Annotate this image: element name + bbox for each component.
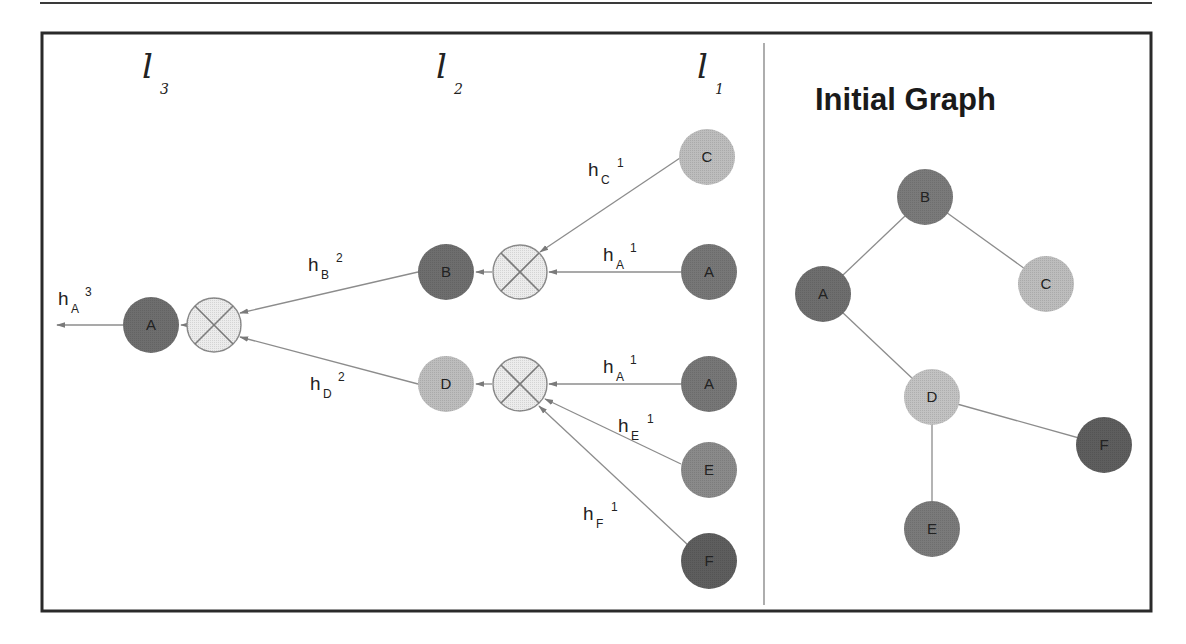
svg-text:h: h — [603, 356, 614, 377]
tree-node-A-layer1-top: A — [681, 244, 737, 300]
svg-text:1: 1 — [647, 412, 654, 426]
edge-hC1 — [540, 158, 680, 252]
tree-node-B-layer2: B — [418, 244, 474, 300]
tree-node-A-layer3: A — [123, 297, 179, 353]
svg-text:F: F — [1099, 436, 1108, 453]
svg-text:D: D — [323, 387, 332, 401]
graph-node-A: A — [795, 266, 851, 322]
svg-text:A: A — [616, 258, 624, 272]
svg-text:A: A — [704, 263, 714, 280]
svg-text:D: D — [927, 388, 938, 405]
aggregator-icon — [187, 298, 241, 352]
graph-node-D: D — [904, 369, 960, 425]
svg-text:1: 1 — [630, 241, 637, 255]
graph-node-B: B — [897, 169, 953, 225]
svg-text:E: E — [927, 520, 937, 537]
svg-text:E: E — [631, 429, 639, 443]
edge-label-hA3: h A 3 — [58, 285, 92, 316]
graph-node-E: E — [904, 501, 960, 557]
tree-node-D-layer2: D — [418, 356, 474, 412]
svg-text:F: F — [596, 517, 603, 531]
svg-text:1: 1 — [611, 500, 618, 514]
svg-text:l: l — [436, 46, 447, 86]
edge-label-hE1: h E 1 — [618, 412, 654, 443]
svg-text:h: h — [588, 159, 599, 180]
layer-label-l1: l 1 — [697, 46, 724, 97]
edge-hD2 — [240, 337, 418, 384]
aggregator-icon — [493, 357, 547, 411]
svg-text:C: C — [702, 148, 713, 165]
svg-text:B: B — [321, 268, 329, 282]
svg-text:1: 1 — [617, 156, 624, 170]
svg-text:h: h — [583, 503, 594, 524]
svg-text:C: C — [1041, 275, 1052, 292]
tree-node-F-layer1: F — [681, 533, 737, 589]
edge-label-hA1-bottom: h A 1 — [603, 353, 637, 384]
svg-text:A: A — [616, 370, 624, 384]
edge-label-hF1: h F 1 — [583, 500, 618, 531]
svg-text:E: E — [704, 461, 714, 478]
edge-label-hD2: h D 2 — [310, 370, 345, 401]
graph-node-F: F — [1076, 417, 1132, 473]
graph-edges — [823, 197, 1104, 529]
layer-label-l3: l 3 — [142, 46, 169, 97]
tree-node-C-layer1: C — [679, 129, 735, 185]
svg-text:2: 2 — [336, 251, 343, 265]
svg-text:D: D — [441, 375, 452, 392]
svg-text:B: B — [920, 188, 930, 205]
svg-text:F: F — [704, 552, 713, 569]
edge-hF1 — [539, 406, 688, 545]
svg-text:2: 2 — [453, 81, 463, 97]
svg-text:A: A — [146, 316, 156, 333]
svg-text:2: 2 — [338, 370, 345, 384]
svg-text:l: l — [697, 46, 708, 86]
svg-text:B: B — [441, 263, 451, 280]
edge-label-hC1: h C 1 — [588, 156, 624, 187]
svg-text:C: C — [601, 173, 610, 187]
svg-text:A: A — [704, 375, 714, 392]
gnn-computation-diagram: l 3 l 2 l 1 h A 3 — [0, 0, 1186, 644]
aggregator-icon — [493, 245, 547, 299]
tree-node-A-layer1-bottom: A — [681, 356, 737, 412]
panel-title: Initial Graph — [815, 82, 996, 117]
svg-text:3: 3 — [85, 285, 92, 299]
layer-label-l2: l 2 — [436, 46, 463, 97]
svg-text:h: h — [58, 288, 69, 309]
svg-text:h: h — [308, 254, 319, 275]
svg-text:l: l — [142, 46, 153, 86]
svg-text:A: A — [818, 285, 828, 302]
svg-text:1: 1 — [630, 353, 637, 367]
svg-text:1: 1 — [715, 81, 724, 97]
graph-node-C: C — [1018, 256, 1074, 312]
edge-label-hA1-top: h A 1 — [603, 241, 637, 272]
svg-text:A: A — [71, 302, 79, 316]
svg-text:h: h — [618, 415, 629, 436]
edge-label-hB2: h B 2 — [308, 251, 343, 282]
svg-text:3: 3 — [160, 81, 169, 97]
tree-node-E-layer1: E — [681, 442, 737, 498]
svg-text:h: h — [310, 373, 321, 394]
svg-text:h: h — [603, 244, 614, 265]
